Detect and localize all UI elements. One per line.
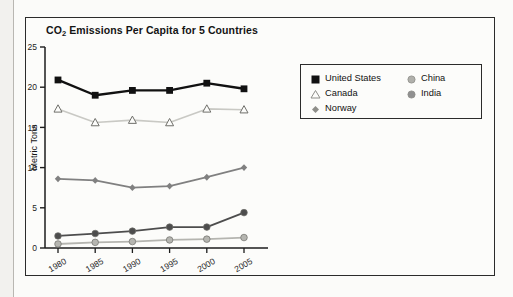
legend-column-right: ChinaIndia	[405, 71, 445, 101]
data-point-marker	[166, 183, 172, 190]
data-point-marker	[166, 224, 173, 231]
series-line	[58, 80, 244, 95]
data-point-marker	[129, 184, 135, 191]
series-line	[58, 213, 244, 236]
series-united-states	[55, 77, 248, 99]
page-margin	[0, 0, 13, 297]
legend-entry: Canada	[309, 86, 381, 100]
page-edge-line	[13, 0, 14, 297]
data-point-marker	[241, 85, 248, 92]
chart-axes: 0510152025Metric Tons1980198519901995200…	[28, 42, 268, 274]
y-tick-label: 0	[32, 243, 37, 253]
legend-label: Norway	[325, 103, 357, 113]
x-tick-label: 1990	[121, 256, 143, 274]
diamond-filled-icon	[309, 102, 322, 115]
data-point-marker	[55, 241, 62, 248]
series-line	[58, 168, 244, 188]
data-point-marker	[92, 230, 99, 237]
data-point-marker	[203, 80, 210, 87]
series-line	[58, 238, 244, 244]
line-chart-plot: 0510152025Metric Tons1980198519901995200…	[25, 17, 495, 276]
data-point-marker	[55, 175, 61, 182]
legend-label: India	[421, 88, 441, 98]
series-line	[58, 109, 244, 123]
data-point-marker	[129, 238, 136, 245]
data-point-marker	[92, 92, 99, 99]
data-point-marker	[92, 239, 99, 246]
series-india	[55, 234, 248, 247]
data-point-marker	[54, 105, 62, 112]
data-point-marker	[204, 174, 210, 181]
series-norway	[55, 164, 247, 191]
legend-column-left: United StatesCanadaNorway	[309, 71, 381, 116]
x-tick-label: 1985	[84, 256, 106, 274]
y-tick-label: 25	[28, 42, 38, 52]
data-point-marker	[204, 224, 211, 231]
x-tick-label: 1980	[47, 256, 69, 274]
legend-label: China	[421, 73, 445, 83]
x-tick-label: 2005	[233, 256, 255, 274]
chart-legend: United StatesCanadaNorway ChinaIndia	[300, 64, 482, 119]
y-tick-label: 5	[32, 203, 37, 213]
legend-label: United States	[325, 73, 381, 83]
data-point-marker	[241, 234, 248, 241]
data-point-marker	[129, 228, 136, 235]
data-point-marker	[241, 164, 247, 171]
x-tick-label: 2000	[195, 256, 217, 274]
y-tick-label: 20	[28, 82, 38, 92]
data-point-marker	[204, 236, 211, 243]
series-china	[55, 209, 248, 239]
legend-label: Canada	[325, 88, 358, 98]
circle-filled-icon	[405, 87, 418, 100]
x-tick-label: 1995	[158, 256, 180, 274]
legend-entry: Norway	[309, 101, 381, 115]
data-point-marker	[166, 237, 173, 244]
data-point-marker	[92, 177, 98, 184]
square-filled-icon	[309, 72, 322, 85]
legend-entry: United States	[309, 71, 381, 85]
legend-entry: China	[405, 71, 445, 85]
legend-entry: India	[405, 86, 445, 100]
series-canada	[54, 105, 248, 126]
data-point-marker	[55, 233, 62, 240]
y-axis-title: Metric Tons	[29, 124, 39, 170]
data-point-marker	[129, 87, 136, 94]
data-point-marker	[166, 87, 173, 94]
data-point-marker	[241, 209, 248, 216]
data-point-marker	[55, 77, 62, 84]
circle-filled-icon	[405, 72, 418, 85]
triangle-open-icon	[309, 87, 322, 100]
